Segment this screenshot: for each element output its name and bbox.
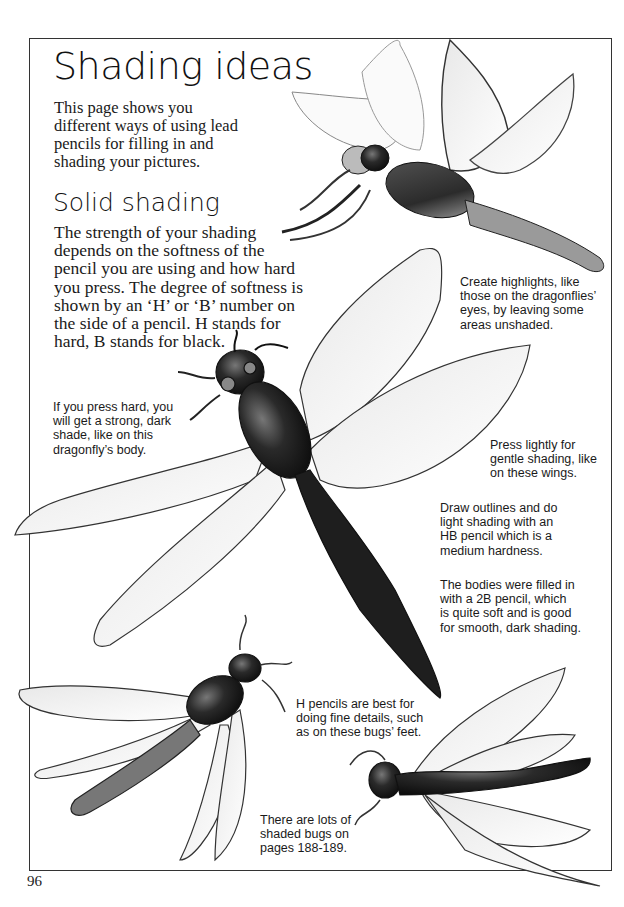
- caption-more-bugs: There are lots of shaded bugs on pages 1…: [260, 813, 351, 856]
- caption-line: medium hardness.: [440, 544, 557, 558]
- bug-bottom-left: [19, 615, 292, 860]
- caption-line: light shading with an: [440, 515, 557, 529]
- caption-line: for smooth, dark shading.: [440, 621, 581, 635]
- body-line: The strength of your shading: [54, 223, 294, 241]
- section-body: The strength of your shading depends on …: [54, 223, 294, 350]
- caption-line: Draw outlines and do: [440, 501, 557, 515]
- caption-line: If you press hard, you: [53, 400, 173, 414]
- caption-line: gentle shading, like: [490, 452, 597, 466]
- caption-line: on these wings.: [490, 466, 597, 480]
- caption-press-lightly: Press lightly for gentle shading, like o…: [490, 438, 597, 481]
- body-line: hard, B stands for black.: [54, 332, 294, 350]
- caption-line: shade, like on this: [53, 428, 173, 442]
- caption-line: those on the dragonflies’: [460, 289, 596, 303]
- body-line: the side of a pencil. H stands for: [54, 314, 294, 332]
- page-number: 96: [27, 873, 42, 890]
- intro-line: pencils for filling in and: [54, 135, 264, 153]
- caption-line: is quite soft and is good: [440, 606, 581, 620]
- caption-line: There are lots of: [260, 813, 351, 827]
- intro-paragraph: This page shows you different ways of us…: [54, 99, 264, 171]
- caption-line: pages 188-189.: [260, 841, 351, 855]
- page-title: Shading ideas: [53, 44, 313, 88]
- caption-line: with a 2B pencil, which: [440, 592, 581, 606]
- caption-line: HB pencil which is a: [440, 529, 557, 543]
- caption-line: Create highlights, like: [460, 275, 596, 289]
- dragonfly-top-right: [282, 40, 604, 272]
- body-line: pencil you are using and how hard: [54, 259, 294, 277]
- intro-line: different ways of using lead: [54, 117, 264, 135]
- caption-line: eyes, by leaving some: [460, 303, 596, 317]
- caption-line: areas unshaded.: [460, 318, 596, 332]
- section-heading: Solid shading: [53, 188, 220, 217]
- caption-h-pencil: H pencils are best for doing fine detail…: [296, 697, 423, 740]
- caption-press-hard: If you press hard, you will get a strong…: [53, 400, 173, 457]
- intro-line: This page shows you: [54, 99, 264, 117]
- body-line: shown by an ‘H’ or ‘B’ number on: [54, 296, 294, 314]
- body-line: you press. The degree of softness is: [54, 278, 294, 296]
- caption-line: The bodies were filled in: [440, 578, 581, 592]
- caption-hb-pencil: Draw outlines and do light shading with …: [440, 501, 557, 558]
- caption-line: shaded bugs on: [260, 827, 351, 841]
- caption-line: H pencils are best for: [296, 697, 423, 711]
- caption-line: dragonfly’s body.: [53, 443, 173, 457]
- caption-line: Press lightly for: [490, 438, 597, 452]
- caption-highlights: Create highlights, like those on the dra…: [460, 275, 596, 332]
- caption-line: doing fine details, such: [296, 711, 423, 725]
- intro-line: shading your pictures.: [54, 153, 264, 171]
- caption-line: will get a strong, dark: [53, 414, 173, 428]
- body-line: depends on the softness of the: [54, 241, 294, 259]
- caption-2b-pencil: The bodies were filled in with a 2B penc…: [440, 578, 581, 635]
- caption-line: as on these bugs’ feet.: [296, 725, 423, 739]
